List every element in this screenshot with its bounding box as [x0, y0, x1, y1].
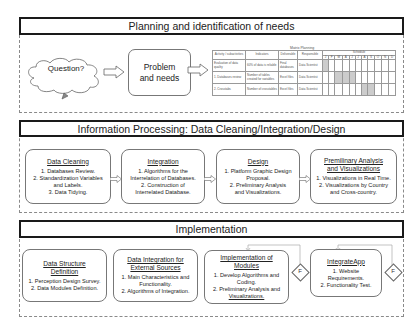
- box-item: 1. Databases Review.: [41, 168, 95, 175]
- box-item: Interrelated Database.: [135, 189, 190, 196]
- box-title: IntegrateApp: [327, 258, 365, 266]
- implementation-section-header: Implementation: [19, 220, 404, 238]
- box-item: 1. Develop Algorithms and: [214, 272, 279, 279]
- box-item: 1. Perception Design Survey.: [28, 278, 100, 285]
- box-item: Interrelation of Databases.: [130, 175, 196, 182]
- box-item: 2. Algorithms of Integration.: [121, 288, 189, 295]
- box-item: Requirements.: [328, 275, 364, 282]
- implementation-of-modules-box: Implementation of Modules 1. Develop Alg…: [204, 250, 289, 304]
- responsible-cell: Data Scientist: [298, 72, 323, 84]
- data-integration-external-box: Data Integration for External Sources 1.…: [113, 249, 198, 302]
- planning-section-title: Planning and identification of needs: [129, 20, 295, 32]
- box-item: 1. Platform Graphic Design: [224, 168, 291, 175]
- box-item: and Cross-country.: [330, 189, 377, 196]
- thought-cloud-icon: [24, 56, 106, 102]
- matrix-header: Activity / subactivities: [213, 51, 246, 60]
- feedback-label: F: [292, 268, 308, 274]
- box-item: 2. Visualizations by Country: [319, 182, 388, 189]
- responsible-cell: Data Scientist: [298, 84, 323, 96]
- design-box: Design 1. Platform Graphic Design Propos…: [216, 149, 300, 204]
- box-item: 2. Standardization Variables: [33, 175, 103, 182]
- matrix-planning-table: Activity / subactivities Indicators Deli…: [212, 50, 396, 96]
- indicator-cell: 60% of data is reliable: [246, 60, 279, 72]
- activity-cell: Evaluation of data quality: [213, 60, 246, 72]
- box-item: Visualizations.: [229, 293, 265, 300]
- box-item: Functionality.: [139, 281, 172, 288]
- activity-cell: 1. Databases review: [213, 72, 246, 84]
- box-title: Data Cleaning: [47, 158, 89, 166]
- box-title: Implementation of Modules: [217, 254, 277, 270]
- arrow-right-icon: [204, 175, 216, 183]
- implementation-section-title: Implementation: [176, 223, 248, 235]
- deliverable-cell: Excel files: [279, 72, 298, 84]
- arrow-right-icon: [103, 65, 125, 79]
- table-row: 1. Databases review Number of tables cre…: [213, 72, 396, 84]
- box-item: 1. Website: [333, 268, 359, 275]
- box-title: Data Structure Definition: [40, 260, 90, 276]
- matrix-header: Indicators: [246, 51, 279, 60]
- problem-and-needs-label: Problem and needs: [136, 62, 184, 84]
- box-item: and Visualizations.: [235, 189, 282, 196]
- box-item: and Labels.: [54, 182, 83, 189]
- problem-and-needs-box: Problem and needs: [128, 49, 191, 96]
- planning-section-header: Planning and identification of needs: [19, 17, 404, 35]
- table-row: Evaluation of data quality 60% of data i…: [213, 60, 396, 72]
- responsible-cell: Data Scientist: [298, 60, 323, 72]
- integration-box: Integration 1. Algorithms for the Interr…: [121, 149, 205, 204]
- box-item: 2. Preliminary Analysis: [230, 182, 286, 189]
- box-item: 1. Main Characteristics and: [122, 274, 190, 281]
- indicator-cell: Number of tables created for variables: [246, 72, 279, 84]
- table-row: 2. Crosstabs Number of crosstables Excel…: [213, 84, 396, 96]
- activity-cell: 2. Crosstabs: [213, 84, 246, 96]
- question-label: Question?: [38, 64, 94, 73]
- box-item: 1. Algorithms for the: [138, 168, 188, 175]
- feedback-label: F: [385, 268, 401, 274]
- box-item: 1. Visualizations in Real Time.: [316, 175, 391, 182]
- box-title: Design: [248, 158, 269, 166]
- processing-section-title: Information Processing: Data Cleaning/In…: [78, 123, 346, 135]
- box-title: Integration: [147, 158, 178, 166]
- box-item: 2. Construction of: [141, 182, 185, 189]
- matrix-header: Deliverable: [279, 51, 298, 60]
- deliverable-cell: Final databases: [279, 60, 298, 72]
- box-item: 3. Data Tidying.: [49, 189, 88, 196]
- data-cleaning-box: Data Cleaning 1. Databases Review. 2. St…: [25, 149, 111, 204]
- arrow-right-icon: [187, 63, 209, 77]
- box-item: 2. Data Modules Definition.: [31, 285, 98, 292]
- box-item: 2. Functionality Test.: [321, 282, 372, 289]
- box-item: Proposal.: [246, 175, 270, 182]
- integrate-app-box: IntegrateApp 1. Website Requirements. 2.…: [310, 249, 382, 297]
- box-title: Premilinary Analysis and Visualizations: [319, 157, 389, 173]
- box-title: Data Integration for External Sources: [124, 256, 188, 272]
- box-item: 2. Preliminary Analysis and: [213, 286, 280, 293]
- data-structure-definition-box: Data Structure Definition 1. Perception …: [22, 249, 107, 302]
- indicator-cell: Number of crosstables: [246, 84, 279, 96]
- matrix-header: Responsible: [298, 51, 323, 60]
- processing-section-header: Information Processing: Data Cleaning/In…: [19, 120, 404, 137]
- preliminary-analysis-box: Premilinary Analysis and Visualizations …: [310, 149, 397, 204]
- box-item: Coding.: [237, 279, 256, 286]
- deliverable-cell: Excel files: [279, 84, 298, 96]
